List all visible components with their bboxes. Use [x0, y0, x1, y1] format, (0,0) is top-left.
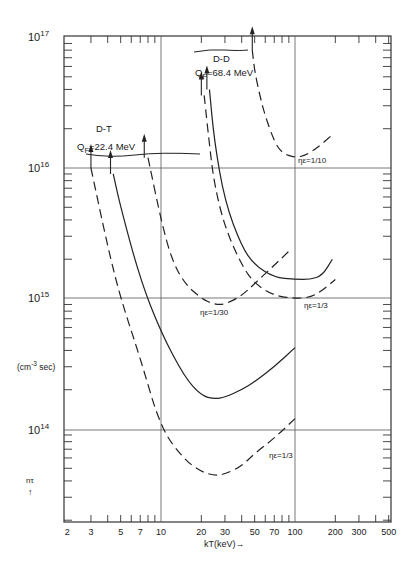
curve	[91, 168, 295, 475]
ntau-vs-kt-chart: 23571020305070100200300500 1017 1016 101…	[0, 0, 410, 573]
x-tick-marks	[91, 36, 389, 522]
x-tick-label: 500	[381, 527, 396, 537]
x-tick-label: 5	[118, 527, 123, 537]
curves	[91, 50, 335, 475]
x-axis-label: kT(keV)→	[204, 539, 245, 549]
arrow-up-icon	[250, 26, 255, 34]
x-tick-label: 200	[328, 527, 343, 537]
x-tick-label: 10	[156, 527, 166, 537]
dd-qf-label: QF=68.4 MeV	[195, 67, 254, 81]
x-tick-label: 100	[287, 527, 302, 537]
y-tick-label-1e14: 1014	[28, 422, 50, 436]
curve	[204, 95, 335, 298]
x-tick-labels: 23571020305070100200300500	[65, 527, 396, 537]
dd-label: D-D	[213, 53, 230, 64]
y-tick-marks	[64, 43, 391, 520]
dd-brace	[194, 50, 248, 52]
y-tick-label-1e17: 1017	[28, 29, 50, 43]
dt-label: D-T	[96, 123, 112, 134]
dt-qf-label: QF=22.4 MeV	[77, 141, 136, 155]
x-tick-label: 2	[65, 527, 70, 537]
dt-brace	[86, 153, 200, 156]
x-tick-label: 70	[269, 527, 279, 537]
curve	[148, 158, 289, 305]
dt-group-label: D-T QF=22.4 MeV	[77, 123, 200, 156]
y-tick-label-1e15: 1015	[28, 290, 50, 304]
curve	[209, 89, 332, 279]
annotation-dt-1-30: ηε=1/30	[200, 308, 229, 317]
y-tick-label-1e16: 1016	[28, 160, 50, 174]
arrow-up-icon	[142, 134, 147, 142]
x-tick-label: 7	[138, 527, 143, 537]
x-tick-label: 300	[351, 527, 366, 537]
x-tick-label: 50	[250, 527, 260, 537]
y-axis-arrow-icon: ↑	[28, 487, 33, 497]
y-axis-units: (cm-3 sec)	[17, 360, 56, 372]
curve	[113, 174, 295, 398]
x-tick-label: 3	[88, 527, 93, 537]
grid	[64, 36, 391, 522]
y-axis-label: nτ	[26, 476, 34, 485]
y-tick-labels: 1017 1016 1015 1014	[28, 29, 50, 436]
plot-frame	[64, 36, 391, 522]
annotation-dd-1-3: ηε=1/3	[304, 301, 328, 310]
annotation-dt-1-3: ηε=1/3	[269, 451, 293, 460]
annotation-dd-1-10: ηε=1/10	[298, 156, 327, 165]
x-tick-label: 30	[220, 527, 230, 537]
curve	[252, 50, 332, 157]
dd-group-label: D-D QF=68.4 MeV	[194, 50, 254, 81]
x-tick-label: 20	[196, 527, 206, 537]
